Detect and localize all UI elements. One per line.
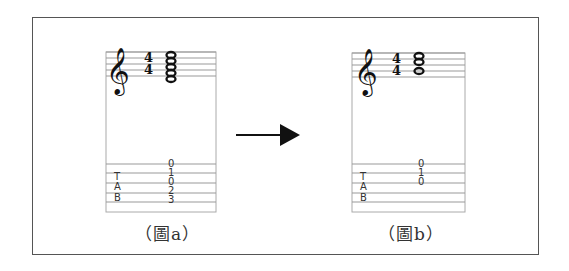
treble-clef-icon: 𝄞 [354, 48, 378, 97]
arrow-right-icon [230, 120, 310, 150]
treble-clef-icon: 𝄞 [106, 47, 130, 96]
tab-lines [352, 164, 465, 202]
tab-label-b: B [114, 192, 121, 203]
chord-notes [167, 52, 176, 82]
tab-number: 3 [168, 194, 174, 205]
caption-b: （圖b） [378, 220, 444, 245]
caption-a: （圖a） [135, 220, 200, 245]
tab-lines [106, 164, 216, 202]
tab-label-a: A [360, 181, 367, 192]
note [415, 59, 424, 65]
note [167, 76, 176, 82]
time-sig-bottom: 4 [144, 62, 153, 77]
tab-number: 0 [418, 176, 424, 187]
panel-b: 𝄞 4 4 T A B 0 1 0 [346, 40, 471, 220]
panel-a: 𝄞 4 4 T A B 0 1 0 2 3 [100, 40, 225, 220]
time-sig-bottom: 4 [392, 63, 401, 78]
tab-label-a: A [114, 181, 121, 192]
tab-label-b: B [360, 192, 367, 203]
